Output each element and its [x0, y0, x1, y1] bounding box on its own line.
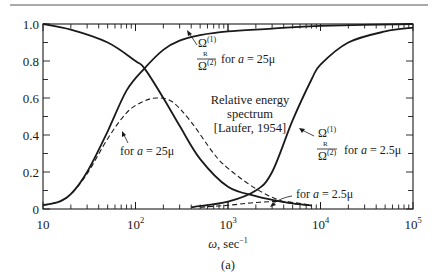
annotation-dashed-2-5mu: for a = 2.5μ	[270, 187, 353, 207]
x-tick-label: 10	[37, 217, 50, 232]
chart-title: Relative energy spectrum [Laufer, 1954]	[211, 93, 290, 135]
svg-text:Ω(1): Ω(1)	[198, 35, 217, 50]
svg-text:[Laufer, 1954]: [Laufer, 1954]	[214, 121, 286, 135]
arrowhead-icon	[299, 128, 305, 133]
y-tick-label: 0.4	[23, 128, 40, 143]
x-tick-labels: 10102103104105	[37, 215, 422, 232]
annotation-ratio-25mu: Ω(1) R Ω(2) for a = 25μ	[187, 30, 275, 73]
y-tick-label: 0.2	[23, 165, 39, 180]
figure-caption: (a)	[221, 258, 235, 272]
x-tick-label: 104	[312, 215, 330, 232]
x-axis-label: ω, sec−1	[208, 236, 248, 251]
y-tick-label: 0.8	[23, 54, 39, 69]
y-tick-label: 1.0	[23, 17, 39, 32]
y-tick-label: 0	[33, 202, 40, 217]
arrowhead-icon	[187, 30, 192, 36]
svg-text:spectrum: spectrum	[227, 107, 273, 121]
relative-energy-spectrum-chart: 00.20.40.60.81.0 10102103104105 Ω(1) R Ω…	[0, 0, 445, 279]
x-tick-label: 103	[219, 215, 236, 232]
annotation-ratio-2-5mu: Ω(1) R Ω(2) for a = 2.5μ	[299, 125, 401, 163]
x-tick-label: 102	[127, 215, 144, 232]
arrowhead-icon	[122, 131, 126, 137]
y-tick-labels: 00.20.40.60.81.0	[23, 17, 40, 217]
svg-text:Ω(1): Ω(1)	[318, 125, 337, 140]
svg-text:for a = 2.5μ: for a = 2.5μ	[344, 143, 401, 157]
svg-text:Ω(2): Ω(2)	[318, 148, 337, 163]
svg-text:for a = 25μ: for a = 25μ	[120, 144, 174, 158]
annotation-leader	[124, 135, 128, 143]
annotation-dashed-25mu: for a = 25μ	[120, 131, 174, 158]
svg-text:for a = 25μ: for a = 25μ	[221, 52, 275, 66]
y-tick-label: 0.6	[23, 91, 40, 106]
x-tick-label: 105	[404, 215, 421, 232]
svg-text:R: R	[323, 140, 328, 148]
svg-text:for a = 2.5μ: for a = 2.5μ	[296, 187, 353, 201]
annotation-leader	[302, 130, 314, 136]
svg-text:Ω(2): Ω(2)	[198, 58, 217, 73]
svg-text:Relative energy: Relative energy	[211, 93, 290, 107]
svg-text:R: R	[203, 50, 208, 58]
